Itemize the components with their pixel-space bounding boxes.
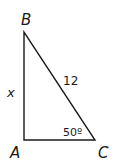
triangle-abc (24, 32, 95, 140)
angle-label-c: 50º (63, 126, 82, 139)
side-label-ab: x (6, 85, 15, 100)
triangle-diagram: B A C x 12 50º (0, 0, 114, 166)
vertex-label-b: B (21, 11, 31, 29)
vertex-label-c: C (98, 144, 109, 162)
side-label-bc: 12 (63, 74, 78, 88)
vertex-label-a: A (9, 144, 20, 162)
